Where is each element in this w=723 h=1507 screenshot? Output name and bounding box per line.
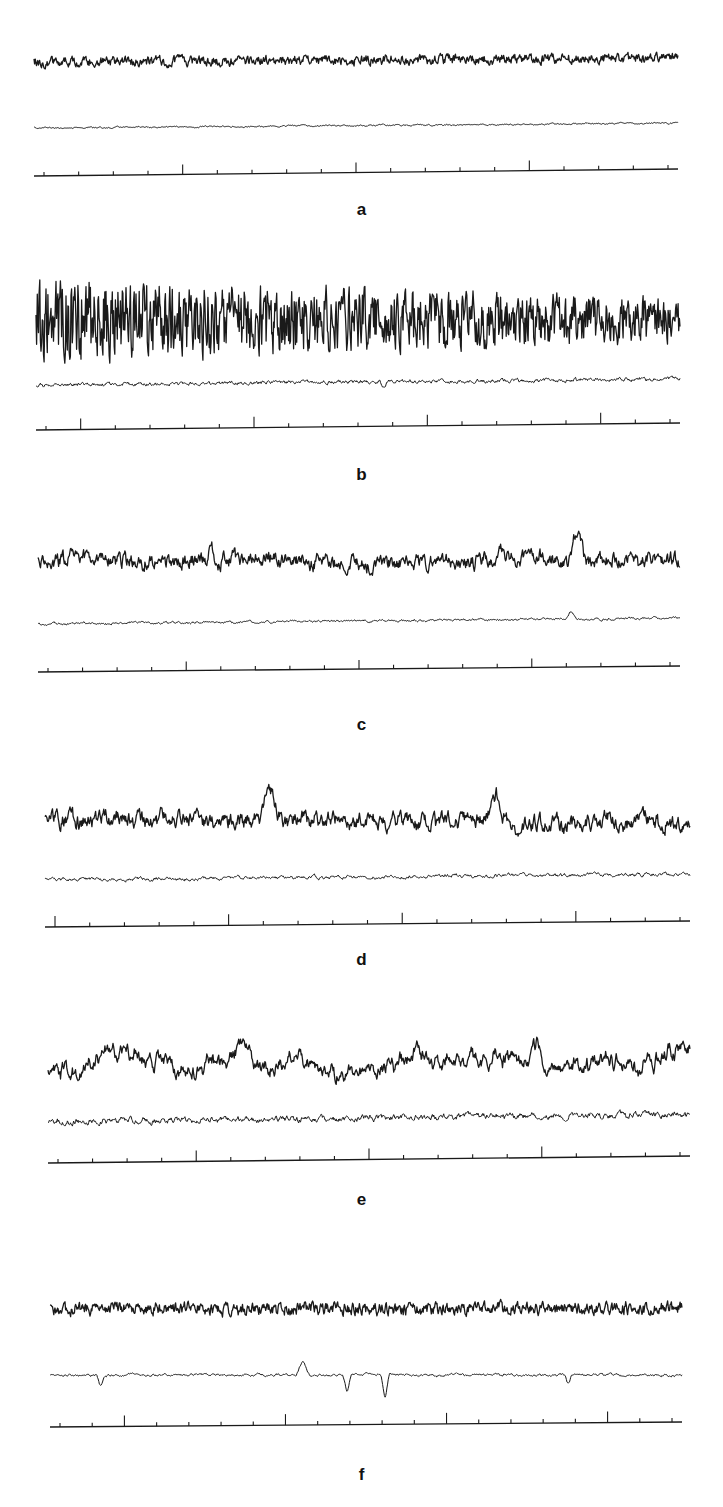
panel-label: f	[0, 1465, 723, 1485]
trace-plot	[0, 510, 723, 730]
main-trace	[45, 784, 690, 836]
panel-label: d	[0, 950, 723, 970]
trace-plot	[0, 790, 723, 1010]
secondary-trace	[36, 376, 680, 387]
panel-label: c	[0, 715, 723, 735]
secondary-trace	[50, 1362, 682, 1398]
panel-b: b	[0, 280, 723, 490]
panel-e: e	[0, 1030, 723, 1240]
main-trace	[38, 531, 680, 575]
panel-label: b	[0, 465, 723, 485]
secondary-trace	[45, 872, 690, 882]
panel-label: a	[0, 200, 723, 220]
main-trace	[36, 280, 680, 363]
panel-d: d	[0, 790, 723, 1010]
main-trace	[50, 1299, 682, 1317]
secondary-trace	[38, 612, 680, 626]
panel-c: c	[0, 510, 723, 730]
main-trace	[34, 52, 678, 69]
panel-a: a	[0, 40, 723, 240]
secondary-trace	[48, 1110, 690, 1126]
trace-plot	[0, 280, 723, 490]
main-trace	[48, 1037, 690, 1084]
panel-label: e	[0, 1190, 723, 1210]
time-marker-baseline	[50, 1422, 682, 1427]
panel-f: f	[0, 1280, 723, 1500]
secondary-trace	[34, 122, 678, 128]
